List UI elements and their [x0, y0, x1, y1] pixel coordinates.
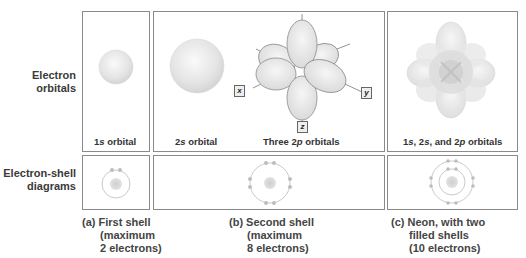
footnote-first-shell: (a) First shell (maximum 2 electrons)	[82, 216, 162, 255]
shell-panel-second	[153, 155, 385, 210]
axis-label-z: z	[297, 121, 308, 133]
footnote-line: 2 electrons)	[82, 242, 162, 255]
caption-1s-orbital: 1s orbital	[94, 136, 136, 147]
combined-orbitals-cluster	[407, 22, 495, 118]
caption-2p-orbitals: Three 2p orbitals	[263, 136, 340, 147]
shell-panel-first	[82, 155, 150, 210]
footnote-neon: (c) Neon, with two filled shells (10 ele…	[391, 216, 485, 255]
caption-part: Three 2	[263, 136, 297, 147]
1s-orbital-sphere	[99, 50, 133, 84]
footnote-line: 8 electrons)	[229, 242, 314, 255]
axis-label-y: y	[361, 87, 372, 99]
2s-orbital-sphere	[170, 39, 224, 93]
caption-combined-orbitals: 1s, 2s, and 2p orbitals	[403, 136, 502, 147]
footnote-line: (a) First shell	[82, 216, 150, 228]
shell-panel-neon	[387, 155, 518, 210]
caption-2s-orbital: 2s orbital	[175, 136, 217, 147]
footnote-line: (maximum	[229, 229, 314, 242]
footnote-line: (c) Neon, with two	[391, 216, 485, 228]
footnote-line: (b) Second shell	[229, 216, 314, 228]
caption-part: , 2	[414, 136, 425, 147]
axis-label-x: x	[234, 85, 245, 97]
caption-part: orbitals	[465, 136, 502, 147]
caption-part: orbital	[105, 136, 137, 147]
footnote-line: (maximum	[82, 229, 162, 242]
footnote-line: filled shells	[391, 229, 485, 242]
2p-orbitals	[253, 14, 362, 128]
caption-part: orbitals	[303, 136, 340, 147]
footnote-second-shell: (b) Second shell (maximum 8 electrons)	[229, 216, 314, 255]
caption-part: orbital	[186, 136, 218, 147]
footnote-line: (10 electrons)	[391, 242, 485, 255]
caption-part: , and 2	[429, 136, 459, 147]
